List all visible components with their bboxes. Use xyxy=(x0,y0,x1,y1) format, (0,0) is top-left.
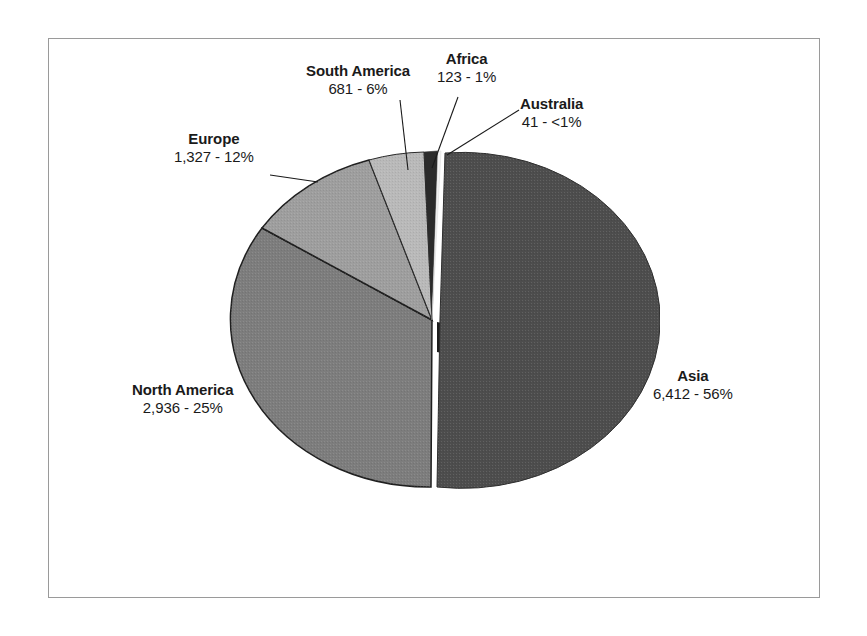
pie-label-australia: Australia 41 - <1% xyxy=(520,95,583,130)
pie-label-north-america-category: North America xyxy=(132,381,234,399)
pie-label-north-america-value: 2,936 - 25% xyxy=(132,399,234,417)
pie-label-north-america: North America 2,936 - 25% xyxy=(132,381,234,416)
pie-label-south-america-value: 681 - 6% xyxy=(306,80,410,98)
pie-label-africa-value: 123 - 1% xyxy=(437,68,496,86)
pie-label-europe-category: Europe xyxy=(174,130,254,148)
pie-label-asia: Asia 6,412 - 56% xyxy=(653,367,733,402)
figure-root: South America 681 - 6% Africa 123 - 1% A… xyxy=(0,0,867,636)
pie-label-australia-category: Australia xyxy=(520,95,583,113)
pie-label-asia-value: 6,412 - 56% xyxy=(653,385,733,403)
pie-label-europe-value: 1,327 - 12% xyxy=(174,148,254,166)
chart-frame-border xyxy=(48,38,820,598)
pie-label-south-america-category: South America xyxy=(306,62,410,80)
pie-label-africa: Africa 123 - 1% xyxy=(437,50,496,85)
pie-label-asia-category: Asia xyxy=(653,367,733,385)
pie-label-australia-value: 41 - <1% xyxy=(520,113,583,131)
pie-label-europe: Europe 1,327 - 12% xyxy=(174,130,254,165)
pie-label-africa-category: Africa xyxy=(437,50,496,68)
pie-label-south-america: South America 681 - 6% xyxy=(306,62,410,97)
